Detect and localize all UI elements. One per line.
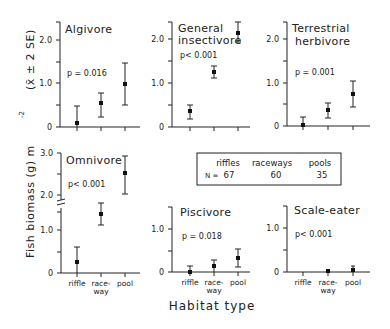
panel-title-algivore: Algivore [65,23,112,36]
tick-label: 2.0 [266,35,279,44]
x-label-raceway-2: way [320,286,336,295]
table-row-label: N = [205,172,218,180]
figure-canvas: Fish biomass (g) m -2 (x̄ ± 2 SE) 2.0 1.… [0,0,390,329]
panel-algivore-points [75,82,127,125]
x-label-raceway-2: way [93,287,109,296]
tick-label: 3.0 [40,149,53,158]
p-value-algivore: p = 0.016 [67,69,107,78]
x-label-pool: pool [117,279,133,288]
table-value-riffles: 67 [224,170,235,180]
p-value-scale-eater: p< 0.001 [295,230,332,239]
p-value-general-insectivore: p< 0.001 [180,51,217,60]
sample-size-table: riffles raceways pools N = 67 60 35 [197,153,341,185]
tick-label: 0 [47,123,52,132]
panel-title-insectivore: insectivore [178,34,242,47]
axis-break-icon [57,199,65,205]
x-axis-title: Habitat type [169,299,256,313]
tick-label: 2.0 [40,191,53,200]
table-header-pools: pools [309,158,332,168]
x-label-pool: pool [345,278,361,287]
tick-label: 2.0 [39,36,52,45]
tick-label: 0 [48,269,53,278]
x-label-riffle: riffle [181,278,198,287]
panel-terrestrial-herbivore-points [301,92,355,127]
panel-omnivore [57,153,140,277]
y-axis-label: Fish biomass (g) m -2 (x̄ ± 2 SE) [18,29,37,258]
tick-label: 1.0 [266,224,279,233]
panel-title-terrestrial: Terrestrial [291,22,350,35]
tick-label: 1.0 [40,226,53,235]
x-label-riffle: riffle [294,278,311,287]
table-value-raceways: 60 [271,170,282,180]
panel-title-omnivore: Omnivore [66,154,122,167]
p-value-piscivore: p = 0.018 [182,232,222,241]
x-label-pool: pool [230,278,246,287]
table-value-pools: 35 [317,170,328,180]
tick-label: 1.0 [151,79,164,88]
y-axis-subtitle: (x̄ ± 2 SE) [24,29,37,90]
p-value-omnivore: p< 0.001 [68,180,105,189]
panel-title-scale-eater: Scale-eater [294,204,360,217]
panel-title-piscivore: Piscivore [180,206,231,219]
tick-label: 2.0 [151,35,164,44]
p-value-terrestrial-herbivore: p = 0.001 [295,68,335,77]
tick-label: 1.0 [266,79,279,88]
tick-label: 0 [159,123,164,132]
tick-label: 1.0 [39,79,52,88]
table-header-riffles: riffles [216,158,240,168]
x-label-raceway-2: way [206,286,222,295]
y-axis-title: Fish biomass (g) m [24,145,37,258]
tick-label: 0 [159,268,164,277]
panel-title-herbivore: herbivore [295,35,350,48]
x-label-riffle: riffle [68,279,85,288]
tick-label: 1.0 [151,225,164,234]
table-header-raceways: raceways [252,158,293,168]
tick-label: 0 [274,268,279,277]
y-axis-exponent: -2 [18,111,26,118]
tick-label: 0 [274,122,279,131]
